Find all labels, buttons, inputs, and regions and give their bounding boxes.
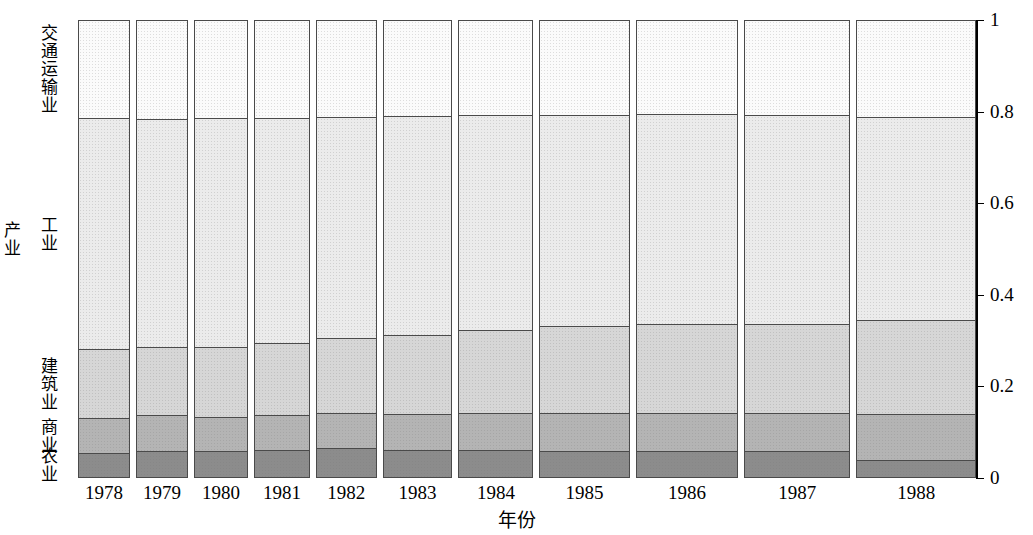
mosaic-column-1986[interactable] — [636, 20, 739, 478]
y-tick-label-0: 0 — [990, 467, 1000, 489]
mosaic-segment-commerce-1979[interactable] — [136, 415, 187, 450]
category-label-construction: 建筑业 — [24, 349, 72, 419]
x-tick-label-1985: 1985 — [539, 482, 629, 504]
mosaic-segment-commerce-1978[interactable] — [78, 418, 130, 452]
mosaic-segment-transport-1985[interactable] — [539, 20, 629, 115]
mosaic-segment-commerce-1988[interactable] — [856, 414, 976, 460]
x-tick-label-1981: 1981 — [254, 482, 310, 504]
y-tick-mark-1 — [976, 20, 984, 21]
y-tick-label-0.2: 0.2 — [990, 375, 1014, 397]
mosaic-segment-commerce-1985[interactable] — [539, 413, 629, 451]
mosaic-column-1983[interactable] — [383, 20, 453, 478]
plot-area — [78, 20, 976, 478]
mosaic-segment-construction-1984[interactable] — [458, 330, 533, 413]
mosaic-segment-construction-1987[interactable] — [744, 324, 850, 412]
mosaic-segment-commerce-1986[interactable] — [636, 413, 739, 451]
category-label-agriculture: 农业 — [24, 453, 72, 478]
mosaic-segment-commerce-1980[interactable] — [194, 417, 249, 452]
mosaic-segment-industry-1985[interactable] — [539, 115, 629, 326]
x-tick-label-1987: 1987 — [744, 482, 850, 504]
mosaic-segment-agriculture-1982[interactable] — [316, 448, 377, 478]
y-tick-label-0.8: 0.8 — [990, 101, 1014, 123]
y-tick-label-0.6: 0.6 — [990, 192, 1014, 214]
mosaic-segment-transport-1979[interactable] — [136, 20, 187, 119]
mosaic-segment-industry-1986[interactable] — [636, 114, 739, 324]
mosaic-segment-transport-1980[interactable] — [194, 20, 249, 118]
mosaic-segment-construction-1979[interactable] — [136, 347, 187, 415]
mosaic-segment-agriculture-1981[interactable] — [254, 450, 310, 478]
mosaic-segment-construction-1983[interactable] — [383, 335, 453, 414]
x-tick-label-1978: 1978 — [78, 482, 130, 504]
x-tick-label-1980: 1980 — [194, 482, 249, 504]
mosaic-segment-agriculture-1987[interactable] — [744, 451, 850, 478]
y-tick-mark-0.8 — [976, 112, 984, 113]
mosaic-column-1987[interactable] — [744, 20, 850, 478]
mosaic-segment-industry-1987[interactable] — [744, 115, 850, 324]
mosaic-column-1984[interactable] — [458, 20, 533, 478]
category-label-group: 农业商业建筑业工业交通运输业 — [24, 20, 72, 478]
mosaic-segment-industry-1979[interactable] — [136, 119, 187, 347]
y-tick-mark-0 — [976, 478, 984, 479]
mosaic-segment-transport-1981[interactable] — [254, 20, 310, 118]
mosaic-segment-agriculture-1979[interactable] — [136, 451, 187, 478]
mosaic-segment-construction-1985[interactable] — [539, 326, 629, 413]
mosaic-segment-agriculture-1980[interactable] — [194, 451, 249, 478]
mosaic-segment-transport-1988[interactable] — [856, 20, 976, 117]
x-tick-label-1984: 1984 — [458, 482, 533, 504]
mosaic-segment-commerce-1983[interactable] — [383, 414, 453, 450]
x-tick-label-1988: 1988 — [856, 482, 976, 504]
mosaic-segment-transport-1982[interactable] — [316, 20, 377, 117]
mosaic-segment-agriculture-1988[interactable] — [856, 460, 976, 478]
mosaic-column-1980[interactable] — [194, 20, 249, 478]
mosaic-column-1985[interactable] — [539, 20, 629, 478]
mosaic-segment-commerce-1981[interactable] — [254, 415, 310, 449]
mosaic-segment-industry-1981[interactable] — [254, 118, 310, 344]
mosaic-segment-agriculture-1978[interactable] — [78, 453, 130, 478]
mosaic-segment-industry-1982[interactable] — [316, 117, 377, 339]
x-tick-label-1979: 1979 — [136, 482, 187, 504]
mosaic-segment-construction-1988[interactable] — [856, 320, 976, 414]
x-axis-title: 年份 — [0, 505, 1033, 532]
mosaic-column-1978[interactable] — [78, 20, 130, 478]
mosaic-segment-transport-1987[interactable] — [744, 20, 850, 115]
mosaic-segment-commerce-1982[interactable] — [316, 413, 377, 448]
mosaic-segment-transport-1984[interactable] — [458, 20, 533, 115]
y-tick-label-0.4: 0.4 — [990, 284, 1014, 306]
mosaic-segment-transport-1986[interactable] — [636, 20, 739, 114]
mosaic-segment-industry-1980[interactable] — [194, 118, 249, 347]
y-axis-line — [976, 20, 978, 478]
x-tick-label-1983: 1983 — [383, 482, 453, 504]
category-label-transport: 交通运输业 — [24, 20, 72, 118]
mosaic-segment-industry-1988[interactable] — [856, 117, 976, 320]
y-tick-label-1: 1 — [990, 9, 1000, 31]
mosaic-column-1981[interactable] — [254, 20, 310, 478]
y-tick-mark-0.4 — [976, 295, 984, 296]
mosaic-segment-agriculture-1983[interactable] — [383, 450, 453, 478]
y-tick-mark-0.6 — [976, 203, 984, 204]
mosaic-segment-construction-1978[interactable] — [78, 349, 130, 419]
mosaic-chart: 产业 农业商业建筑业工业交通运输业 1978197919801981198219… — [0, 0, 1033, 535]
mosaic-segment-transport-1983[interactable] — [383, 20, 453, 116]
mosaic-segment-construction-1986[interactable] — [636, 324, 739, 413]
mosaic-segment-construction-1981[interactable] — [254, 343, 310, 415]
mosaic-segment-construction-1982[interactable] — [316, 338, 377, 413]
y-axis-title: 产业 — [2, 0, 19, 478]
mosaic-column-1979[interactable] — [136, 20, 187, 478]
mosaic-segment-industry-1983[interactable] — [383, 116, 453, 335]
mosaic-segment-industry-1978[interactable] — [78, 118, 130, 348]
category-label-commerce: 商业 — [24, 418, 72, 452]
mosaic-column-1982[interactable] — [316, 20, 377, 478]
mosaic-column-1988[interactable] — [856, 20, 976, 478]
mosaic-segment-industry-1984[interactable] — [458, 115, 533, 330]
x-tick-label-1986: 1986 — [636, 482, 739, 504]
mosaic-segment-commerce-1987[interactable] — [744, 413, 850, 452]
y-tick-mark-0.2 — [976, 386, 984, 387]
x-tick-label-1982: 1982 — [316, 482, 377, 504]
mosaic-segment-transport-1978[interactable] — [78, 20, 130, 118]
mosaic-segment-construction-1980[interactable] — [194, 347, 249, 417]
mosaic-segment-commerce-1984[interactable] — [458, 413, 533, 450]
mosaic-segment-agriculture-1986[interactable] — [636, 451, 739, 478]
category-label-industry: 工业 — [24, 118, 72, 348]
mosaic-segment-agriculture-1984[interactable] — [458, 450, 533, 478]
mosaic-segment-agriculture-1985[interactable] — [539, 451, 629, 478]
